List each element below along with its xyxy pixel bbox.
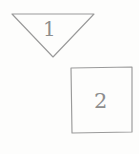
triangle-label: 1 <box>43 19 56 39</box>
sketch-canvas: 1 2 <box>0 0 139 154</box>
shape-drawing-surface <box>0 0 139 154</box>
square-label: 2 <box>94 91 107 112</box>
